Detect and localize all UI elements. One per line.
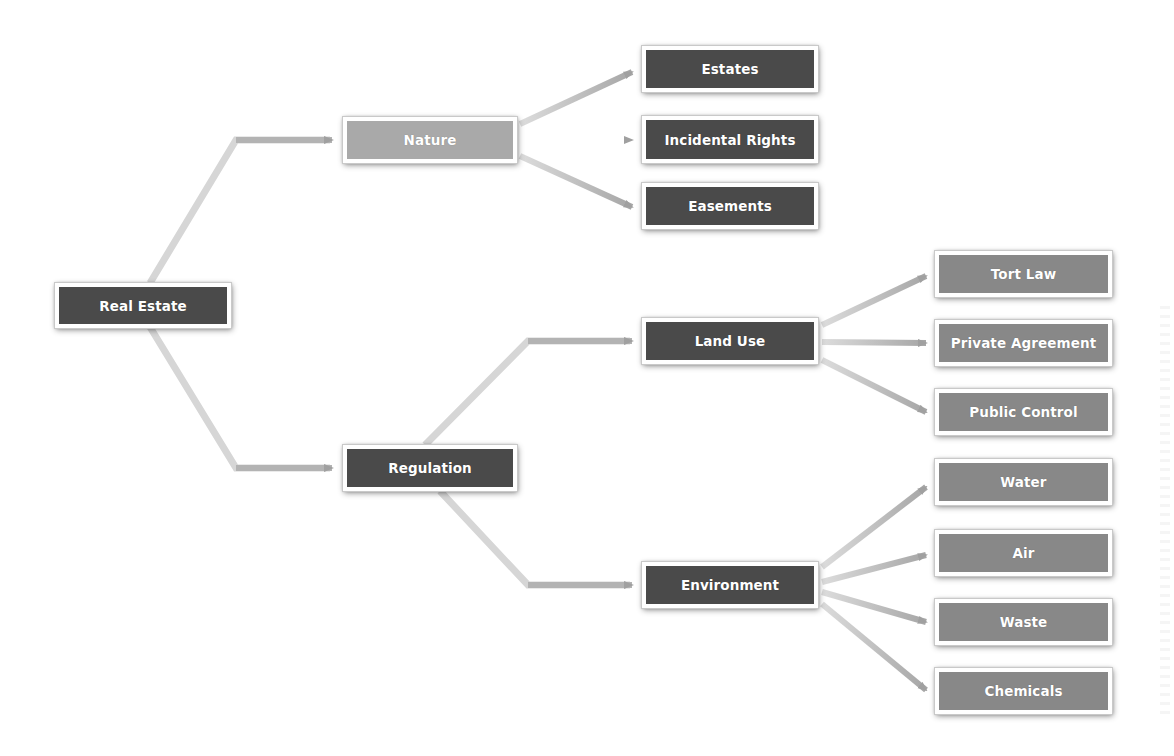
node-label: Regulation (388, 460, 472, 476)
connector-regulation-to-land-use (425, 341, 632, 445)
node-air: Air (935, 530, 1112, 576)
connector-environment-to-air (822, 555, 926, 582)
node-label: Public Control (969, 404, 1077, 420)
node-regulation: Regulation (343, 445, 517, 491)
node-incidental-rights: Incidental Rights (642, 116, 818, 163)
node-land-use: Land Use (642, 318, 818, 364)
connector-nature-to-easements (520, 156, 632, 207)
node-label: Incidental Rights (664, 132, 795, 148)
node-label: Real Estate (99, 298, 187, 314)
connector-environment-to-water (822, 487, 926, 567)
node-label: Nature (404, 132, 457, 148)
connector-nature-to-estates (520, 72, 632, 124)
node-real-estate: Real Estate (55, 283, 231, 328)
node-private-agreement: Private Agreement (935, 320, 1112, 366)
node-chemicals: Chemicals (935, 668, 1112, 714)
connector-land-use-to-tort-law (822, 276, 926, 325)
connector-land-use-to-private-agreement (822, 342, 926, 343)
node-nature: Nature (343, 117, 517, 163)
node-label: Easements (688, 198, 772, 214)
node-tort-law: Tort Law (935, 251, 1112, 297)
scan-edge-artifact (1160, 300, 1170, 720)
node-label: Tort Law (991, 266, 1057, 282)
node-label: Chemicals (984, 683, 1062, 699)
node-label: Environment (681, 577, 779, 593)
node-water: Water (935, 459, 1112, 505)
connector-regulation-to-environment (440, 491, 632, 585)
connector-land-use-to-public-control (822, 360, 926, 412)
connector-real-estate-to-nature (150, 140, 332, 283)
node-estates: Estates (642, 46, 818, 92)
real-estate-hierarchy-diagram: Real Estate Nature Regulation Estates In… (0, 0, 1174, 756)
node-label: Land Use (695, 333, 766, 349)
connector-real-estate-to-regulation (150, 327, 332, 468)
node-public-control: Public Control (935, 389, 1112, 435)
node-label: Water (1000, 474, 1046, 490)
node-label: Air (1012, 545, 1034, 561)
node-label: Private Agreement (951, 335, 1096, 351)
node-label: Waste (1000, 614, 1048, 630)
node-environment: Environment (642, 562, 818, 608)
node-easements: Easements (642, 183, 818, 229)
node-label: Estates (701, 61, 758, 77)
node-waste: Waste (935, 599, 1112, 645)
